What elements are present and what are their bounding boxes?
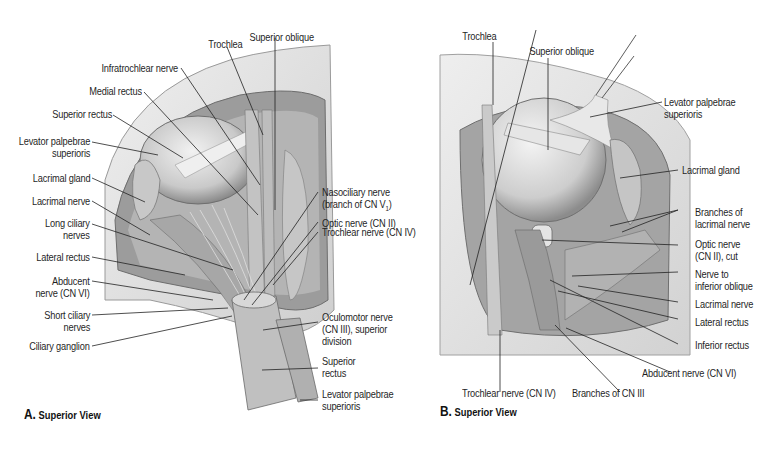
label-lateral-rectus: Lateral rectus: [36, 251, 90, 263]
label-superior-rectus: Superior rectus: [52, 108, 112, 120]
label-lacrimal-nerve: Lacrimal nerve: [32, 195, 90, 207]
label-b-inferior-rectus: Inferior rectus: [695, 339, 749, 351]
label-b-optic-nerve-cut: Optic nerve (CN II), cut: [695, 238, 740, 262]
label-b-lateral-rectus: Lateral rectus: [695, 316, 749, 328]
label-nasociliary-nerve: Nasociliary nerve (branch of CN V1): [322, 186, 392, 215]
label-levator-cut: Levator palpebrae superioris: [322, 388, 394, 412]
label-b-nerve-to-inferior-oblique: Nerve to inferior oblique: [695, 268, 753, 292]
label-b-branches-cn3: Branches of CN III: [572, 387, 644, 399]
label-b-lacrimal-nerve: Lacrimal nerve: [695, 298, 753, 310]
label-levator-palpebrae: Levator palpebrae superioris: [19, 135, 91, 159]
caption-a: A. Superior View: [24, 406, 101, 422]
label-b-abducent-nerve: Abducent nerve (CN VI): [642, 367, 736, 379]
label-superior-oblique: Superior oblique: [249, 31, 313, 43]
label-oculomotor-nerve: Oculomotor nerve (CN III), superior divi…: [322, 311, 393, 347]
label-infratrochlear-nerve: Infratrochlear nerve: [101, 62, 178, 74]
caption-b: B. Superior View: [440, 403, 517, 419]
label-superior-rectus-cut: Superior rectus: [322, 355, 356, 379]
panel-b-superior-view: Trochlea Superior oblique Levator palpeb…: [430, 0, 774, 450]
label-trochlear-nerve: Trochlear nerve (CN IV): [322, 226, 416, 238]
label-ciliary-ganglion: Ciliary ganglion: [30, 340, 90, 352]
label-lacrimal-gland: Lacrimal gland: [32, 172, 90, 184]
label-long-ciliary-nerves: Long ciliary nerves: [45, 217, 90, 241]
label-b-superior-oblique: Superior oblique: [529, 45, 593, 57]
label-short-ciliary-nerves: Short ciliary nerves: [44, 309, 90, 333]
label-b-trochlear-nerve: Trochlear nerve (CN IV): [462, 387, 556, 399]
panel-a-superior-view: Trochlea Superior oblique Infratrochlear…: [0, 0, 430, 450]
label-b-branches-lacrimal-nerve: Branches of lacrimal nerve: [695, 206, 750, 230]
label-trochlea: Trochlea: [208, 38, 242, 50]
label-b-trochlea: Trochlea: [462, 30, 496, 42]
label-medial-rectus: Medial rectus: [89, 85, 142, 97]
label-b-levator-palpebrae: Levator palpebrae superioris: [664, 96, 736, 120]
label-abducent-nerve: Abducent nerve (CN VI): [36, 275, 90, 299]
label-b-lacrimal-gland: Lacrimal gland: [682, 164, 740, 176]
